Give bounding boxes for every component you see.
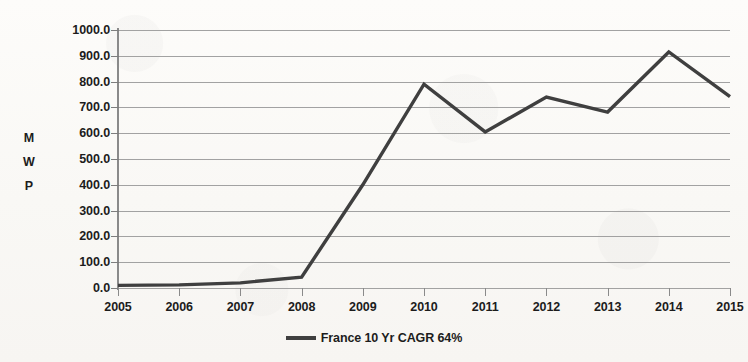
y-tick-label: 900.0 [36,49,110,63]
x-tick-mark [485,288,486,296]
x-tick-label: 2013 [594,300,621,314]
y-tick-label: 700.0 [36,100,110,114]
x-tick-mark [669,288,670,296]
x-tick-label: 2010 [410,300,437,314]
x-tick-mark [546,288,547,296]
y-tick-label: 400.0 [36,178,110,192]
x-tick-mark [179,288,180,296]
x-tick-label: 2011 [472,300,499,314]
y-tick-label: 200.0 [36,229,110,243]
x-tick-mark [730,288,731,296]
x-tick-label: 2008 [288,300,315,314]
x-tick-mark [240,288,241,296]
x-tick-mark [118,288,119,296]
chart-container: M W P 0.0100.0200.0300.0400.0500.0600.07… [0,0,748,362]
y-tick-label: 0.0 [36,281,110,295]
x-axis-tick-labels: 2005200620072008200920102011201220132014… [118,300,730,320]
plot-area [118,30,730,288]
y-tick-label: 300.0 [36,204,110,218]
legend-label-france: France 10 Yr CAGR 64% [321,331,463,345]
x-tick-mark [363,288,364,296]
x-tick-mark [608,288,609,296]
chart-legend: France 10 Yr CAGR 64% [0,331,748,345]
y-tick-label: 1000.0 [36,23,110,37]
y-tick-label: 600.0 [36,126,110,140]
x-tick-label: 2012 [533,300,560,314]
x-tick-label: 2005 [104,300,131,314]
legend-line-swatch [286,336,316,339]
x-tick-label: 2009 [349,300,376,314]
y-tick-label: 800.0 [36,75,110,89]
y-tick-label: 100.0 [36,255,110,269]
y-tick-label: 500.0 [36,152,110,166]
x-tick-mark [424,288,425,296]
x-tick-label: 2014 [655,300,682,314]
x-tick-label: 2015 [716,300,743,314]
series-line-france [118,30,730,288]
x-tick-label: 2007 [227,300,254,314]
x-tick-mark [302,288,303,296]
x-tick-label: 2006 [165,300,192,314]
